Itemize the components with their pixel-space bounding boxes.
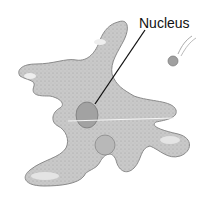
nucleus-label: Nucleus <box>139 15 190 31</box>
highlight <box>31 172 59 180</box>
highlight <box>94 39 106 45</box>
highlight <box>160 136 180 144</box>
highlight <box>24 73 36 79</box>
amoeba-body <box>19 21 190 186</box>
bacterium-icon <box>168 36 196 66</box>
nucleus <box>76 102 98 128</box>
food-vacuole <box>95 135 115 155</box>
amoeba-diagram: Nucleus <box>0 0 208 203</box>
